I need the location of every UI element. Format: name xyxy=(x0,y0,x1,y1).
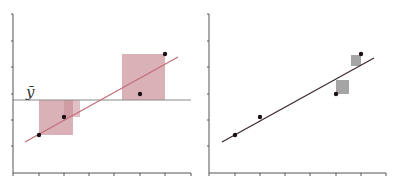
data-point xyxy=(138,92,142,96)
residual-square-2 xyxy=(351,55,361,66)
data-point xyxy=(163,52,167,56)
deviation-square-2 xyxy=(64,100,80,117)
right-panel xyxy=(207,14,386,176)
data-point xyxy=(233,133,237,137)
chart-canvas: ȳ xyxy=(0,0,395,185)
left-panel: ȳ xyxy=(11,14,191,176)
mean-y-label: ȳ xyxy=(25,83,35,101)
data-point xyxy=(258,115,262,119)
data-point xyxy=(37,133,41,137)
regression-line xyxy=(222,58,374,142)
data-point xyxy=(62,115,66,119)
data-point xyxy=(359,52,363,56)
residual-square-1 xyxy=(336,80,349,94)
deviation-square-3 xyxy=(122,54,165,100)
data-point xyxy=(334,92,338,96)
